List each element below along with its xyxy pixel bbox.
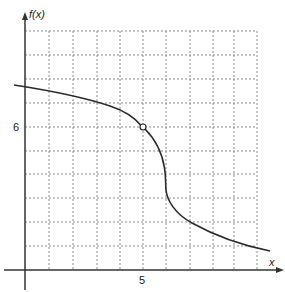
x-axis-arrow-icon (276, 267, 284, 273)
function-curve (14, 85, 270, 251)
grid (25, 31, 257, 270)
y-axis-arrow-icon (22, 12, 28, 20)
y-axis-label: f(x) (29, 8, 45, 20)
tick-label-y-6: 6 (13, 121, 19, 133)
function-graph: f(x) x 6 5 (0, 0, 285, 292)
x-axis-label: x (268, 256, 275, 268)
tick-label-x-5: 5 (139, 274, 145, 286)
open-circle-point (140, 124, 146, 130)
axes (4, 16, 280, 290)
